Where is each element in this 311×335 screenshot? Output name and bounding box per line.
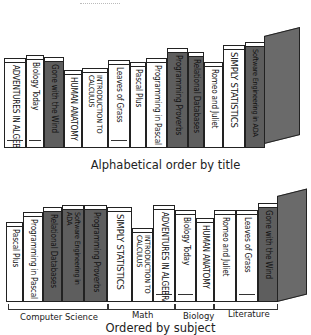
group-label-literature: Literature [228, 309, 270, 319]
book-spine: Relational Databases [43, 207, 62, 302]
book-spine: Leaves of Grass [236, 210, 258, 302]
group-brace-biology [175, 304, 214, 310]
group-brace-computer-science [8, 304, 108, 310]
book-spine: HUMAN ANATOMY [196, 218, 214, 302]
book-spine: Romeo and Juliet [214, 210, 236, 302]
book-cover-face [277, 189, 307, 302]
group-label-biology: Biology [183, 311, 214, 321]
book-spine: SIMPLY STATISTICS [107, 207, 132, 302]
bottom-shelf: Pascal Plus Programming in Pascal Relati… [0, 0, 311, 335]
book-spine: Software Engineering in ADA [62, 205, 84, 302]
bottom-shelf-caption: Ordered by subject [5, 321, 311, 335]
book-spine: ADVENTURES IN ALGEBRA [153, 205, 175, 302]
book-spine: Programming Proverbs [84, 205, 107, 302]
group-label-math: Math [132, 310, 153, 320]
book-spine: Biology Today [175, 210, 196, 302]
book-spine: Programming in Pascal [23, 212, 43, 302]
book-spine: Gone with the Wind [258, 203, 278, 302]
book-spine: INTRODUCTION TO CALCULUS [132, 228, 153, 302]
book-spine: Pascal Plus [6, 222, 23, 302]
